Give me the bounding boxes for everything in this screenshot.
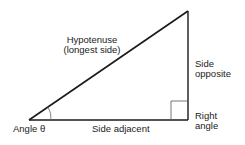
side-adjacent-label: Side adjacent [92,124,150,134]
right-angle-label: Right angle [195,111,218,131]
right-angle-marker [171,101,188,120]
hypotenuse-label: Hypotenuse (longest side) [52,35,132,55]
angle-theta-label: Angle θ [13,124,45,134]
side-opposite-label: Side opposite [195,59,231,79]
side-opposite-label-line2: opposite [195,69,231,79]
angle-theta-arc [48,107,51,120]
right-angle-label-line2: angle [195,121,218,131]
hypotenuse-line [29,11,188,120]
hypotenuse-label-line2: (longest side) [52,45,132,55]
